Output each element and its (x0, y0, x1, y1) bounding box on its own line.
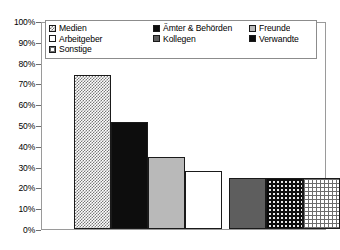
y-axis-tick-label: 30% (19, 163, 35, 174)
y-axis-tick-label: 40% (19, 142, 35, 153)
legend-row: Sonstige (49, 44, 313, 55)
y-axis-tick-label: 80% (19, 59, 35, 70)
legend-item-verwandte: Verwandte (249, 34, 299, 45)
legend-item-kollegen: Kollegen (153, 34, 249, 45)
bar-freunde (148, 157, 185, 229)
y-axis-tick-label: 10% (19, 204, 35, 215)
y-axis-tick-mark (36, 230, 41, 231)
legend-label: Ämter & Behörden (163, 23, 232, 34)
bar-sonstige (303, 178, 340, 230)
bar-verwandte (266, 178, 303, 230)
legend-row: Medien Ämter & Behörden Freunde (49, 23, 313, 34)
legend-label: Medien (59, 23, 87, 34)
legend-item-medien: Medien (49, 23, 153, 34)
legend-label: Sonstige (59, 44, 92, 55)
y-axis-tick-label: 50% (19, 121, 35, 132)
legend-swatch-darkgray-icon (153, 35, 160, 42)
bar-arbeitgeber (185, 171, 222, 229)
legend-swatch-lightgray-icon (249, 25, 256, 32)
legend-item-arbeitgeber: Arbeitgeber (49, 34, 153, 45)
y-axis-tick-label: 100% (14, 17, 35, 28)
bar-medien (74, 75, 111, 230)
legend-item-freunde: Freunde (249, 23, 290, 34)
legend-item-sonstige: Sonstige (49, 44, 153, 55)
bar-aemter-behoerden (111, 122, 148, 229)
legend: Medien Ämter & Behörden Freunde Arbeitge… (45, 20, 317, 59)
legend-swatch-black-icon (153, 25, 160, 32)
legend-item-aemter-behoerden: Ämter & Behörden (153, 23, 249, 34)
legend-swatch-black-icon (249, 35, 256, 42)
legend-label: Kollegen (163, 34, 196, 45)
y-axis-tick-label: 90% (19, 38, 35, 49)
y-axis-tick-label: 20% (19, 183, 35, 194)
legend-swatch-white-icon (49, 35, 56, 42)
legend-label: Freunde (259, 23, 290, 34)
y-axis-tick-label: 60% (19, 100, 35, 111)
legend-swatch-grid-icon (49, 46, 56, 53)
y-axis: 100% 90% 80% 70% 60% 50% 40% 30% (0, 0, 41, 250)
legend-swatch-checker-icon (49, 25, 56, 32)
legend-row: Arbeitgeber Kollegen Verwandte (49, 34, 313, 45)
legend-label: Arbeitgeber (59, 34, 102, 45)
bar-kollegen (229, 178, 266, 230)
y-axis-tick-label: 0% (23, 225, 35, 236)
legend-label: Verwandte (259, 34, 299, 45)
y-axis-tick-label: 70% (19, 79, 35, 90)
